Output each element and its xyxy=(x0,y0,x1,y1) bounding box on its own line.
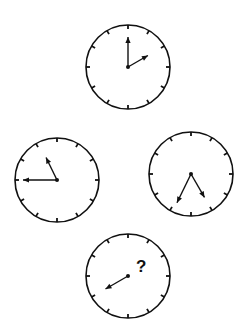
question-mark: ? xyxy=(136,257,146,276)
center-pin xyxy=(126,274,130,278)
center-pin xyxy=(189,172,193,176)
clock-left xyxy=(15,138,99,222)
clock-bottom: ? xyxy=(86,234,170,318)
center-pin xyxy=(55,178,59,182)
center-pin xyxy=(126,65,130,69)
clock-puzzle-canvas: ? xyxy=(0,0,252,335)
clock-top xyxy=(86,25,170,109)
clock-right xyxy=(149,132,233,216)
